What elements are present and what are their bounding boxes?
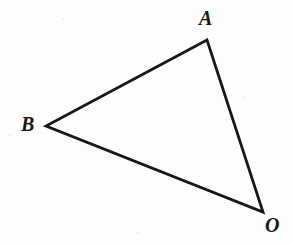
triangle-shape <box>0 0 293 245</box>
triangle-outline <box>46 40 263 212</box>
vertex-label-b: B <box>21 114 34 134</box>
vertex-label-o: O <box>265 215 279 235</box>
geometry-figure: A B O <box>0 0 293 245</box>
vertex-label-a: A <box>199 8 212 28</box>
